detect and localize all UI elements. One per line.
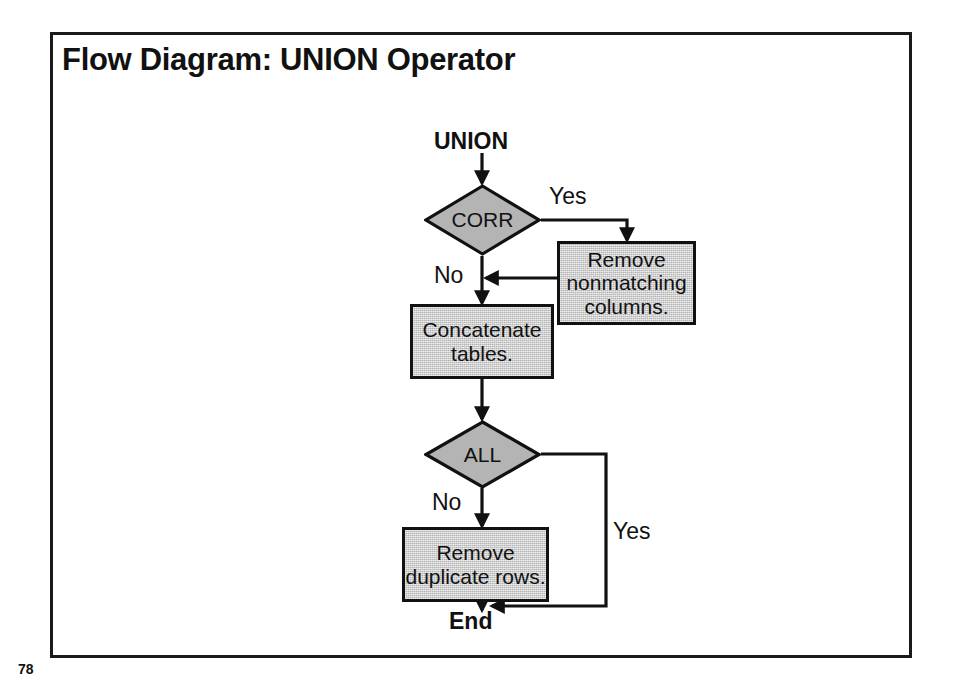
end-terminal-label: End	[449, 608, 492, 635]
process-remove-nonmatching-label: Remove nonmatching columns.	[566, 248, 686, 319]
process-remove-duplicates-label: Remove duplicate rows.	[405, 541, 545, 588]
decision-corr[interactable]: CORR	[424, 184, 541, 256]
process-remove-duplicates[interactable]: Remove duplicate rows.	[402, 527, 549, 602]
edge-label-corr-yes: Yes	[549, 183, 587, 210]
flow-diagram: down into Remove nonmatching box --> Con…	[0, 0, 968, 691]
edge-label-all-no: No	[432, 489, 461, 516]
decision-all[interactable]: ALL	[424, 420, 541, 489]
decision-all-label: ALL	[424, 420, 541, 489]
process-remove-nonmatching[interactable]: Remove nonmatching columns.	[557, 241, 696, 325]
edge-label-corr-no: No	[434, 262, 463, 289]
process-concatenate-label: Concatenate tables.	[422, 318, 541, 365]
decision-corr-label: CORR	[424, 184, 541, 256]
edge-corr-yes	[541, 220, 627, 240]
process-concatenate[interactable]: Concatenate tables.	[410, 304, 554, 379]
start-terminal-label: UNION	[434, 128, 508, 155]
edge-label-all-yes: Yes	[613, 518, 651, 545]
